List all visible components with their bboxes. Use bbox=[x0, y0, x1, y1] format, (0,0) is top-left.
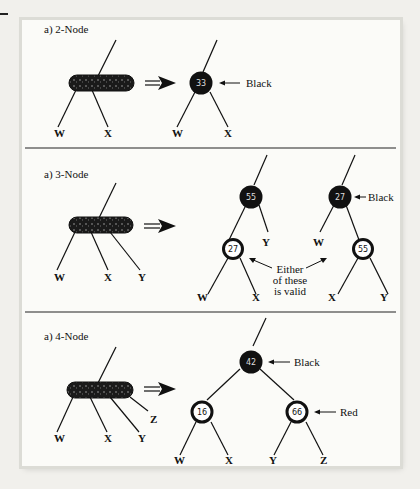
four-node-pill bbox=[67, 382, 133, 398]
leaf-label: X bbox=[104, 432, 112, 444]
annotation-arrow-icon bbox=[268, 360, 290, 365]
leaf-label: Y bbox=[269, 454, 277, 466]
leaf-label: X bbox=[104, 127, 112, 139]
node-value: 27 bbox=[228, 245, 238, 254]
leaf-label: X bbox=[225, 454, 233, 466]
node-value: 27 bbox=[335, 193, 345, 202]
leaf-label: X bbox=[328, 291, 336, 303]
annotation-arrow-icon bbox=[314, 410, 336, 415]
panel-3-node: a) 3-Node W X Y 55 27 Y W X bbox=[44, 155, 394, 303]
leaf-label: W bbox=[54, 271, 65, 283]
panel-title: a) 3-Node bbox=[44, 168, 88, 181]
panel-title: a) 4-Node bbox=[44, 330, 88, 343]
color-annotation: Black bbox=[246, 77, 272, 89]
leaf-label: X bbox=[224, 127, 232, 139]
leaf-label: W bbox=[54, 127, 65, 139]
panel-4-node: a) 4-Node W X Y Z 42 16 66 bbox=[44, 318, 358, 466]
annotation-arrow-icon bbox=[219, 81, 240, 86]
two-three-four-to-red-black-diagram: a) 2-Node W X 33 W X Black a) 3-Node bbox=[0, 0, 420, 489]
leaf-label: Y bbox=[138, 432, 146, 444]
leaf-label: W bbox=[172, 127, 183, 139]
transform-arrow-icon bbox=[144, 219, 176, 233]
node-value: 66 bbox=[292, 408, 302, 417]
either-valid-note: Either of these is valid bbox=[249, 258, 327, 297]
leaf-label: W bbox=[313, 236, 324, 248]
leaf-label: X bbox=[252, 291, 260, 303]
svg-text:is valid: is valid bbox=[274, 285, 307, 297]
color-annotation: Red bbox=[340, 406, 358, 418]
color-annotation: Black bbox=[294, 356, 320, 368]
leaf-label: Y bbox=[380, 291, 388, 303]
panel-2-node: a) 2-Node W X 33 W X Black bbox=[44, 23, 272, 139]
leaf-label: Z bbox=[320, 454, 327, 466]
transform-arrow-icon bbox=[145, 76, 176, 90]
transform-arrow-icon bbox=[144, 382, 176, 396]
rb-tree-option-b: 27 55 W X Y Black bbox=[313, 155, 394, 303]
leaf-label: W bbox=[197, 291, 208, 303]
annotation-arrow-icon bbox=[354, 195, 366, 200]
panel-title: a) 2-Node bbox=[44, 23, 88, 36]
leaf-label: Y bbox=[138, 271, 146, 283]
leaf-label: Z bbox=[150, 413, 157, 425]
rb-tree-option-a: 55 27 Y W X bbox=[197, 155, 270, 303]
color-annotation: Black bbox=[368, 191, 394, 203]
node-value: 42 bbox=[246, 358, 256, 367]
leaf-label: Y bbox=[262, 236, 270, 248]
leaf-label: X bbox=[104, 271, 112, 283]
three-node-pill bbox=[69, 217, 133, 233]
leaf-label: W bbox=[174, 454, 185, 466]
node-value: 16 bbox=[197, 408, 207, 417]
node-value: 55 bbox=[246, 193, 256, 202]
node-value: 55 bbox=[358, 245, 368, 254]
two-node-pill bbox=[69, 75, 134, 91]
leaf-label: W bbox=[54, 432, 65, 444]
node-value: 33 bbox=[196, 79, 206, 88]
